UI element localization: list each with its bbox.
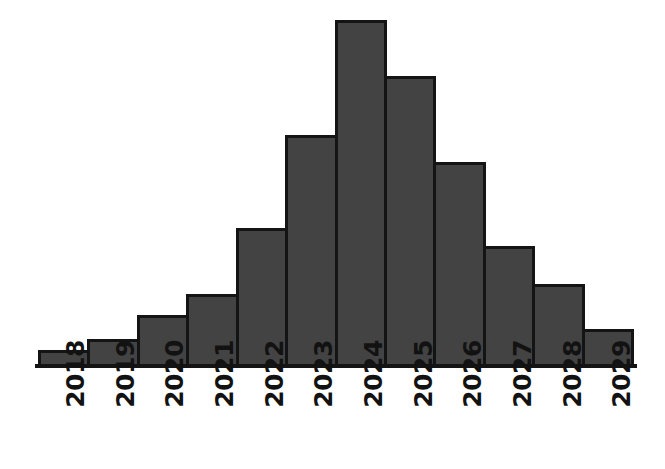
x-tick-label: 2025 <box>411 340 436 408</box>
bar-2026 <box>433 162 485 367</box>
bar-2025 <box>384 76 436 367</box>
x-tick-label: 2027 <box>510 340 535 408</box>
x-tick-2027: 2027 <box>485 372 535 468</box>
bar-2024 <box>335 20 387 367</box>
x-tick-2020: 2020 <box>137 372 187 468</box>
x-tick-2025: 2025 <box>386 372 436 468</box>
plot-area <box>38 20 634 367</box>
x-tick-label: 2024 <box>361 340 386 408</box>
bar-2023 <box>285 135 337 367</box>
x-tick-2024: 2024 <box>336 372 386 468</box>
x-tick-label: 2029 <box>609 340 634 408</box>
bar-chart: 2018 2019 2020 2021 2022 2023 2024 2025 … <box>0 0 665 469</box>
x-tick-label: 2018 <box>63 340 88 408</box>
x-tick-2028: 2028 <box>535 372 585 468</box>
x-tick-label: 2023 <box>311 340 336 408</box>
x-tick-2018: 2018 <box>38 372 88 468</box>
x-tick-label: 2019 <box>113 340 138 408</box>
x-tick-2022: 2022 <box>237 372 287 468</box>
x-tick-label: 2028 <box>560 340 585 408</box>
x-tick-label: 2022 <box>262 340 287 408</box>
x-tick-label: 2026 <box>460 340 485 408</box>
x-tick-label: 2021 <box>212 340 237 408</box>
x-tick-2029: 2029 <box>584 372 634 468</box>
x-tick-2021: 2021 <box>187 372 237 468</box>
x-tick-2026: 2026 <box>435 372 485 468</box>
x-tick-2019: 2019 <box>88 372 138 468</box>
x-tick-label: 2020 <box>162 340 187 408</box>
x-axis-tick-labels: 2018 2019 2020 2021 2022 2023 2024 2025 … <box>38 372 634 468</box>
x-tick-2023: 2023 <box>286 372 336 468</box>
